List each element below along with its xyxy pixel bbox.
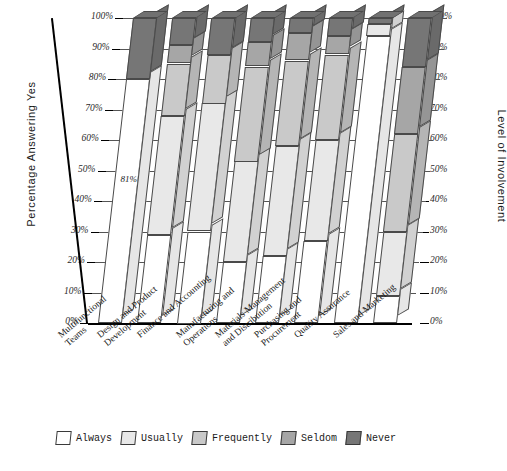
legend-swatch <box>55 431 71 445</box>
legend-swatch <box>191 431 207 445</box>
y-tick-label-right: 30% <box>430 225 447 235</box>
legend-label: Never <box>366 433 396 444</box>
y-tick-label-left: 30% <box>47 225 89 235</box>
legend-item[interactable]: Seldom <box>281 431 337 445</box>
legend-label: Seldom <box>301 433 337 444</box>
y-tick-label-right: 50% <box>430 164 447 174</box>
bar-column[interactable] <box>88 18 418 323</box>
y-tick-mark-right <box>420 293 429 294</box>
y-tick-label-left: 10% <box>40 286 82 296</box>
legend-item[interactable]: Never <box>346 431 396 445</box>
y-tick-label-right: 60% <box>430 133 447 143</box>
legend-swatch <box>345 431 361 445</box>
y-tick-label-right: 20% <box>430 255 447 265</box>
chart-canvas: Percentage Answering Yes Level of Involv… <box>0 0 507 471</box>
legend-label: Frequently <box>212 433 272 444</box>
legend-label: Usually <box>141 433 183 444</box>
legend-label: Always <box>76 433 112 444</box>
legend-item[interactable]: Frequently <box>192 431 272 445</box>
y-tick-label-right: 40% <box>430 194 447 204</box>
y-tick-mark-right <box>420 262 429 263</box>
y-tick-label-right: 0% <box>430 316 443 326</box>
y-axis-title-left: Percentage Answering Yes <box>25 69 37 239</box>
legend-item[interactable]: Usually <box>121 431 183 445</box>
y-tick-mark-right <box>420 323 429 324</box>
y-axis-title-right: Level of Involvement <box>496 81 507 251</box>
legend-item[interactable]: Always <box>56 431 112 445</box>
plot-area: 81% <box>88 18 418 323</box>
legend-swatch <box>280 431 296 445</box>
chart-legend: AlwaysUsuallyFrequentlySeldomNever <box>56 431 405 445</box>
data-label: 81% <box>120 174 137 184</box>
y-tick-label-right: 10% <box>430 286 447 296</box>
legend-swatch <box>120 431 136 445</box>
